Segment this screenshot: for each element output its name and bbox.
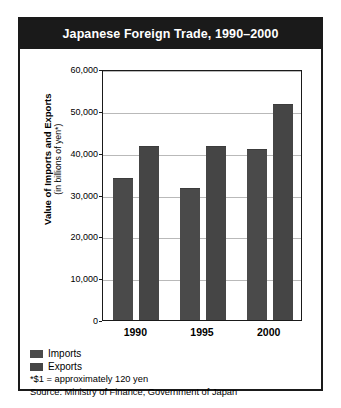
bar-exports-1990 (139, 146, 159, 320)
legend-label: Exports (48, 362, 82, 372)
chart-footnotes: *$1 = approximately 120 yenSource: Minis… (30, 373, 315, 398)
y-tick-label: 60,000 (36, 65, 98, 75)
y-tick-label: 20,000 (36, 232, 98, 242)
chart-legend: ImportsExports (30, 348, 82, 374)
bar-group (103, 71, 301, 320)
x-tick-label-1995: 1995 (190, 326, 213, 338)
legend-item-exports: Exports (30, 361, 82, 372)
y-tick-label: 50,000 (36, 107, 98, 117)
chart-figure: Japanese Foreign Trade, 1990–2000 Value … (18, 17, 323, 391)
y-axis-title: Value of Imports and Exports (in billion… (43, 74, 63, 244)
x-tick-label-2000: 2000 (257, 326, 280, 338)
y-tick-label: 10,000 (36, 274, 98, 284)
legend-swatch-icon (30, 350, 43, 358)
legend-swatch-icon (30, 363, 43, 371)
y-tick-label: 30,000 (36, 191, 98, 201)
bar-exports-2000 (273, 104, 293, 320)
x-tick-label-1990: 1990 (124, 326, 147, 338)
bar-imports-1990 (113, 178, 133, 320)
chart-title: Japanese Foreign Trade, 1990–2000 (63, 27, 279, 41)
bar-exports-1995 (206, 146, 226, 320)
plot-area (102, 70, 302, 321)
y-tick-label: 0 (36, 316, 98, 326)
bar-imports-2000 (247, 149, 267, 320)
footnote-source: Source: Ministry of Finance, Government … (30, 386, 315, 399)
legend-item-imports: Imports (30, 348, 82, 359)
plot-wrapper: 010,00020,00030,00040,00050,00060,000 19… (102, 70, 302, 321)
y-axis-title-line2: (in billions of yen*) (53, 74, 63, 244)
chart-title-bar: Japanese Foreign Trade, 1990–2000 (20, 19, 321, 49)
chart-card-body: Value of Imports and Exports (in billion… (20, 49, 321, 389)
bar-imports-1995 (180, 188, 200, 320)
y-tick-label: 40,000 (36, 149, 98, 159)
legend-label: Imports (48, 349, 81, 359)
footnote-currency: *$1 = approximately 120 yen (30, 373, 315, 386)
